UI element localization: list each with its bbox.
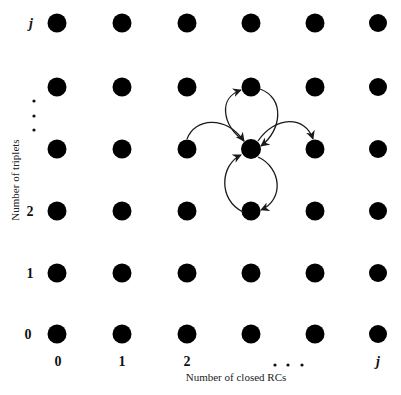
node [369,78,387,96]
node [306,202,325,221]
x-tick-1: 1 [119,354,126,369]
y-tick-j: j [27,16,33,31]
node [178,14,197,33]
node-right [306,140,325,159]
node [306,264,325,283]
node [369,264,387,282]
node [48,264,67,283]
state-lattice-diagram: 0 1 2 j Number of triplets 0 1 2 j Numbe… [0,0,401,395]
arrow-down-to-center [225,155,243,212]
x-axis-ticks: 0 1 2 j [55,354,381,369]
node-up [242,78,261,97]
node [113,78,132,97]
y-axis-ticks: 0 1 2 j [25,16,36,342]
node [178,264,197,283]
node-left [178,140,197,159]
y-tick-0: 0 [25,327,32,342]
x-axis-ellipsis [273,363,303,366]
node [306,325,325,344]
node [178,78,197,97]
node [306,14,325,33]
arrow-center-to-right [258,122,313,141]
node [369,202,387,220]
node [113,325,132,344]
node-grid [48,14,388,344]
arrow-left-to-center [187,122,244,141]
y-axis-ellipsis [32,99,35,131]
node [369,14,387,32]
node [113,264,132,283]
node [113,14,132,33]
node [48,202,67,221]
node [48,78,67,97]
node [369,325,387,343]
node [48,140,67,159]
node [178,202,197,221]
x-axis-label: Number of closed RCs [186,371,287,383]
node [242,325,261,344]
node [242,264,261,283]
node [113,202,132,221]
node-down [242,202,261,221]
y-axis-label: Number of triplets [9,139,21,220]
arrow-center-to-down [258,157,277,210]
arrow-up-to-center [260,89,278,146]
node-center [241,139,261,159]
x-tick-j: j [374,354,380,369]
node [48,325,67,344]
node [306,78,325,97]
x-tick-0: 0 [55,354,62,369]
arrow-center-to-up [226,90,244,141]
node [113,140,132,159]
node [178,325,197,344]
y-tick-1: 1 [27,266,34,281]
node [242,14,261,33]
node [48,14,67,33]
node [369,140,387,158]
x-tick-2: 2 [184,354,191,369]
y-tick-2: 2 [27,204,34,219]
